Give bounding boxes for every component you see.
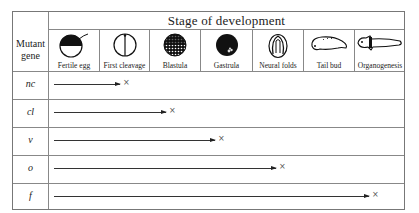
divider [13, 127, 404, 128]
arrest-marker: × [123, 78, 130, 87]
development-arrow [54, 140, 215, 141]
stage-first-cleavage: First cleavage [100, 29, 149, 71]
blastula-icon [162, 32, 188, 58]
tail-bud-icon [308, 32, 350, 54]
arrest-marker: × [218, 134, 225, 143]
divider [13, 99, 404, 100]
development-arrow [54, 168, 276, 169]
gene-label: cl [13, 106, 48, 117]
arrest-marker: × [372, 190, 379, 199]
arrest-marker: × [169, 106, 176, 115]
gene-label: v [13, 134, 48, 145]
development-stage-table: Stage of development Mutant gene Fertile… [12, 11, 405, 210]
stage-blastula: Blastula [150, 29, 200, 71]
stage-tail-bud: Tail bud [304, 29, 354, 71]
divider [13, 183, 404, 184]
development-arrow [54, 84, 120, 85]
gastrula-icon [214, 32, 240, 58]
gene-label: f [13, 190, 48, 201]
table-title: Stage of development [49, 12, 404, 29]
fertile-egg-icon [57, 32, 91, 58]
stage-neural-folds: Neural folds [253, 29, 303, 71]
organogenesis-icon [356, 32, 404, 54]
development-arrow [54, 112, 166, 113]
stage-organogenesis: Organogenesis [355, 29, 405, 71]
gene-label: o [13, 162, 48, 173]
stage-fertile-egg: Fertile egg [49, 29, 99, 71]
first-cleavage-icon [112, 32, 138, 58]
gene-label: nc [13, 78, 48, 89]
divider [13, 155, 404, 156]
row-header: Mutant gene [13, 29, 48, 71]
neural-folds-icon [266, 32, 290, 59]
arrest-marker: × [279, 162, 286, 171]
divider [13, 71, 404, 72]
stage-gastrula: Gastrula [201, 29, 252, 71]
development-arrow [54, 196, 369, 197]
